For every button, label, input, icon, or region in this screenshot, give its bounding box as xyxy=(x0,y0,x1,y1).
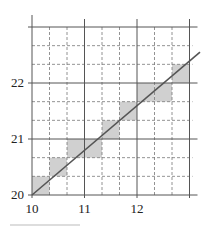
y-tick-label: 20 xyxy=(11,187,24,202)
staircase-diagram: 101112202122 xyxy=(0,0,211,226)
diagonal-line xyxy=(32,52,200,195)
shaded-cell xyxy=(67,139,85,158)
x-tick-label: 11 xyxy=(78,201,91,216)
x-tick-label: 10 xyxy=(26,201,39,216)
x-tick-label: 12 xyxy=(131,201,144,216)
y-tick-label: 21 xyxy=(11,131,24,146)
shaded-cell xyxy=(155,83,173,102)
y-tick-label: 22 xyxy=(11,75,24,90)
